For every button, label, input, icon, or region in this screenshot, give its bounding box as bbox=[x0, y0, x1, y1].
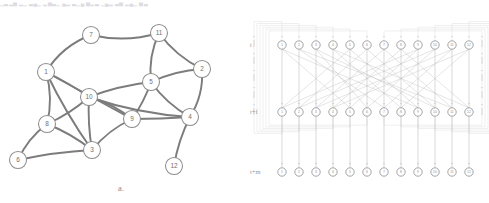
layer-node-r0-c2[interactable]: *2 bbox=[295, 36, 303, 49]
node-label: 1 bbox=[281, 170, 283, 174]
node-star-marker: * bbox=[468, 36, 470, 40]
layer-node-r0-c10[interactable]: *10 bbox=[431, 36, 439, 49]
panel-b-feedback-loop-group bbox=[254, 22, 489, 134]
node-label: 7 bbox=[383, 110, 385, 114]
layer-node-r0-c12[interactable]: *12 bbox=[465, 36, 473, 49]
graph-node-1[interactable]: 1 bbox=[38, 64, 55, 81]
graph-node-3[interactable]: 3 bbox=[84, 142, 101, 159]
node-label: 2 bbox=[298, 170, 300, 174]
layer-node-r0-c4[interactable]: *4 bbox=[329, 36, 337, 49]
graph-edge bbox=[89, 82, 151, 97]
node-star-marker: * bbox=[298, 36, 300, 40]
node-label: 7 bbox=[89, 31, 93, 38]
layer-node-r2-c11[interactable]: *11 bbox=[448, 163, 456, 176]
feedback-loop-path bbox=[257, 24, 299, 132]
node-label: 11 bbox=[450, 43, 454, 47]
graph-node-5[interactable]: 5 bbox=[143, 74, 160, 91]
graph-node-2[interactable]: 2 bbox=[194, 61, 211, 78]
node-label: 7 bbox=[383, 170, 385, 174]
layer-node-r2-c8[interactable]: *8 bbox=[397, 163, 405, 176]
graph-node-7[interactable]: 7 bbox=[83, 27, 100, 44]
node-star-marker: * bbox=[434, 103, 436, 107]
layer-edge-t-to-tf bbox=[316, 49, 435, 108]
node-label: 3 bbox=[90, 146, 94, 153]
layer-node-r2-c6[interactable]: *6 bbox=[363, 163, 371, 176]
node-star-marker: * bbox=[315, 163, 317, 167]
feedback-loop-path bbox=[254, 22, 282, 134]
panel-b-node-group: *1*2*3*4*5*6*7*8*9*10*11*12*1*2*3*4*5*6*… bbox=[278, 36, 473, 176]
right-stub-marker: * bbox=[481, 70, 483, 74]
row-label-0: t bbox=[250, 41, 252, 48]
left-stub-marker: * bbox=[253, 70, 255, 74]
layer-edge-t-to-tf bbox=[316, 49, 367, 108]
panel-b-layered-network: ********** *1*2*3*4*5*6*7*8*9*10*11*12*1… bbox=[248, 0, 489, 203]
node-label: 3 bbox=[315, 43, 317, 47]
node-star-marker: * bbox=[315, 36, 317, 40]
layer-node-r2-c4[interactable]: *4 bbox=[329, 163, 337, 176]
graph-node-8[interactable]: 8 bbox=[39, 116, 56, 133]
layer-node-r2-c5[interactable]: *5 bbox=[346, 163, 354, 176]
node-label: 1 bbox=[44, 68, 48, 75]
layer-node-r0-c11[interactable]: *11 bbox=[448, 36, 456, 49]
panel-b-row-label-group: tt+ft+m bbox=[250, 41, 261, 175]
row-label-1: t+f bbox=[250, 108, 258, 115]
graph-node-9[interactable]: 9 bbox=[124, 111, 141, 128]
layer-node-r0-c3[interactable]: *3 bbox=[312, 36, 320, 49]
layer-node-r0-c7[interactable]: *7 bbox=[380, 36, 388, 49]
right-stub-marker: * bbox=[481, 53, 483, 57]
graph-node-12[interactable]: 12 bbox=[166, 158, 183, 175]
layer-node-r2-c1[interactable]: *1 bbox=[278, 163, 286, 176]
node-label: 12 bbox=[170, 162, 178, 169]
node-label: 11 bbox=[156, 29, 163, 36]
node-star-marker: * bbox=[451, 163, 453, 167]
node-label: 8 bbox=[45, 120, 49, 127]
panel-a-node-group: 711215104983612 bbox=[10, 25, 211, 175]
node-star-marker: * bbox=[366, 163, 368, 167]
layer-node-r2-c2[interactable]: *2 bbox=[295, 163, 303, 176]
graph-node-4[interactable]: 4 bbox=[182, 109, 199, 126]
node-label: 2 bbox=[200, 65, 204, 72]
feedback-loop-path bbox=[469, 22, 489, 134]
layer-node-r0-c5[interactable]: *5 bbox=[346, 36, 354, 49]
right-stub-marker: * bbox=[481, 36, 483, 40]
right-stub-marker: * bbox=[481, 87, 483, 91]
layer-node-r2-c7[interactable]: *7 bbox=[380, 163, 388, 176]
node-star-marker: * bbox=[451, 103, 453, 107]
graph-node-6[interactable]: 6 bbox=[10, 152, 27, 169]
node-label: 4 bbox=[332, 43, 334, 47]
layer-node-r0-c1[interactable]: *1 bbox=[278, 36, 286, 49]
layer-node-r2-c3[interactable]: *3 bbox=[312, 163, 320, 176]
node-star-marker: * bbox=[417, 163, 419, 167]
node-label: 1 bbox=[281, 110, 283, 114]
graph-edge bbox=[18, 150, 92, 160]
layer-node-r0-c8[interactable]: *8 bbox=[397, 36, 405, 49]
layer-node-r2-c12[interactable]: *12 bbox=[465, 163, 473, 176]
node-label: 9 bbox=[417, 43, 419, 47]
node-label: 10 bbox=[85, 93, 93, 100]
graph-node-10[interactable]: 10 bbox=[81, 89, 98, 106]
panel-b-edges-t-to-tf bbox=[282, 49, 469, 108]
layer-node-r0-c6[interactable]: *6 bbox=[363, 36, 371, 49]
right-stub-marker: * bbox=[481, 104, 483, 108]
graph-node-11[interactable]: 11 bbox=[151, 25, 168, 42]
layer-node-r2-c9[interactable]: *9 bbox=[414, 163, 422, 176]
node-label: 8 bbox=[400, 110, 402, 114]
node-label: 6 bbox=[366, 43, 368, 47]
node-label: 2 bbox=[298, 110, 300, 114]
node-label: 5 bbox=[349, 43, 351, 47]
feedback-loop-path bbox=[260, 25, 316, 130]
node-label: 7 bbox=[383, 43, 385, 47]
node-label: 4 bbox=[188, 113, 192, 120]
layer-node-r0-c9[interactable]: *9 bbox=[414, 36, 422, 49]
node-star-marker: * bbox=[281, 36, 283, 40]
panel-a-graph: 711215104983612 a. bbox=[0, 0, 248, 203]
node-label: 9 bbox=[417, 170, 419, 174]
node-star-marker: * bbox=[468, 163, 470, 167]
node-label: 5 bbox=[349, 110, 351, 114]
node-star-marker: * bbox=[332, 36, 334, 40]
node-star-marker: * bbox=[383, 36, 385, 40]
node-label: 6 bbox=[16, 156, 20, 163]
node-label: 5 bbox=[349, 170, 351, 174]
node-star-marker: * bbox=[281, 163, 283, 167]
layer-node-r2-c10[interactable]: *10 bbox=[431, 163, 439, 176]
